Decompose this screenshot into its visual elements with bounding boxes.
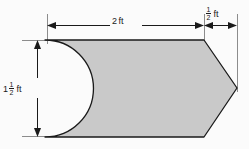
fraction-one-half: 12	[206, 6, 212, 21]
dimension-label-width-2ft: 2ft	[110, 17, 126, 26]
dimension-label-height-one-half-ft: 112ft	[3, 81, 21, 96]
dimension-label-height-unit: ft	[16, 85, 21, 94]
dimension-label-height-whole: 1	[3, 85, 8, 94]
arrowhead-2ft-right	[195, 22, 204, 29]
dimensioned-shape-figure: 2ft 12ft 112ft	[0, 0, 249, 149]
dimension-label-point-unit: ft	[213, 10, 218, 19]
arrowhead-half-ft-left	[204, 22, 213, 29]
arrowhead-height-top	[34, 40, 41, 49]
fraction-one-half: 12	[9, 81, 15, 96]
dimension-point-half-ft	[204, 22, 237, 29]
arrowhead-2ft-left	[47, 22, 56, 29]
fraction-numerator: 1	[206, 6, 212, 13]
dimension-height-one-half-ft	[34, 40, 41, 137]
dimension-label-point-half-ft: 12ft	[205, 6, 218, 21]
fraction-numerator: 1	[9, 81, 15, 88]
dimension-label-width-whole: 2	[112, 17, 117, 26]
dimension-label-width-unit: ft	[119, 17, 124, 26]
arrowhead-height-bottom	[34, 128, 41, 137]
fraction-denominator: 2	[206, 13, 212, 21]
arrowhead-half-ft-right	[228, 22, 237, 29]
shape-pointed-block-with-notch	[45, 40, 237, 137]
fraction-denominator: 2	[9, 88, 15, 96]
